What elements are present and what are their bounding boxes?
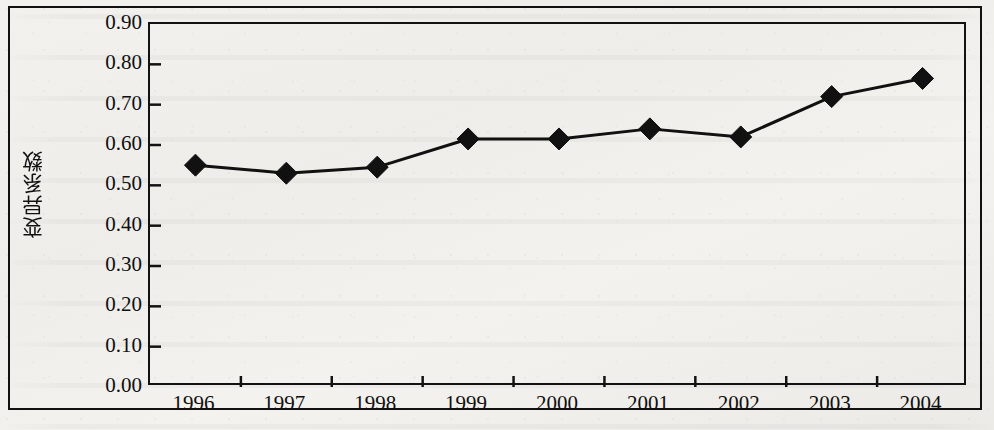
x-tick-label: 1996 (172, 389, 214, 417)
y-tick-label: 0.20 (60, 294, 142, 315)
x-tick-label: 1997 (263, 389, 305, 417)
x-tick-label: 2004 (900, 389, 942, 417)
y-tick-label: 0.90 (60, 12, 142, 33)
data-point-marker (275, 162, 297, 184)
y-axis-tick-labels: 0.000.100.200.300.400.500.600.700.800.90 (60, 22, 142, 385)
y-tick-label: 0.10 (60, 334, 142, 355)
chart-figure: 变异系数 0.000.100.200.300.400.500.600.700.8… (0, 0, 994, 430)
y-tick-label: 0.40 (60, 213, 142, 234)
x-tick-label: 2000 (536, 389, 578, 417)
y-tick-label: 0.70 (60, 92, 142, 113)
data-point-marker (821, 86, 843, 108)
y-axis-title: 变异系数 (22, 150, 56, 238)
x-axis-tick-labels: 年份 199619971998199920002001200220032004 (148, 389, 966, 423)
line-chart-svg (150, 24, 968, 387)
data-series-line (195, 78, 922, 173)
data-point-marker (457, 128, 479, 150)
y-tick-label: 0.80 (60, 52, 142, 73)
y-tick-label: 0.50 (60, 173, 142, 194)
data-point-marker (184, 154, 206, 176)
data-point-marker (730, 126, 752, 148)
data-point-marker (366, 156, 388, 178)
y-tick-label: 0.00 (60, 375, 142, 396)
plot-area (148, 22, 966, 385)
x-tick-label: 2001 (627, 389, 669, 417)
x-tick-label: 2003 (809, 389, 851, 417)
x-tick-label: 1999 (445, 389, 487, 417)
data-point-marker (639, 118, 661, 140)
y-tick-label: 0.30 (60, 254, 142, 275)
data-point-marker (548, 128, 570, 150)
data-point-marker (912, 67, 934, 89)
y-tick-label: 0.60 (60, 133, 142, 154)
x-tick-label: 2002 (718, 389, 760, 417)
x-tick-label: 1998 (354, 389, 396, 417)
